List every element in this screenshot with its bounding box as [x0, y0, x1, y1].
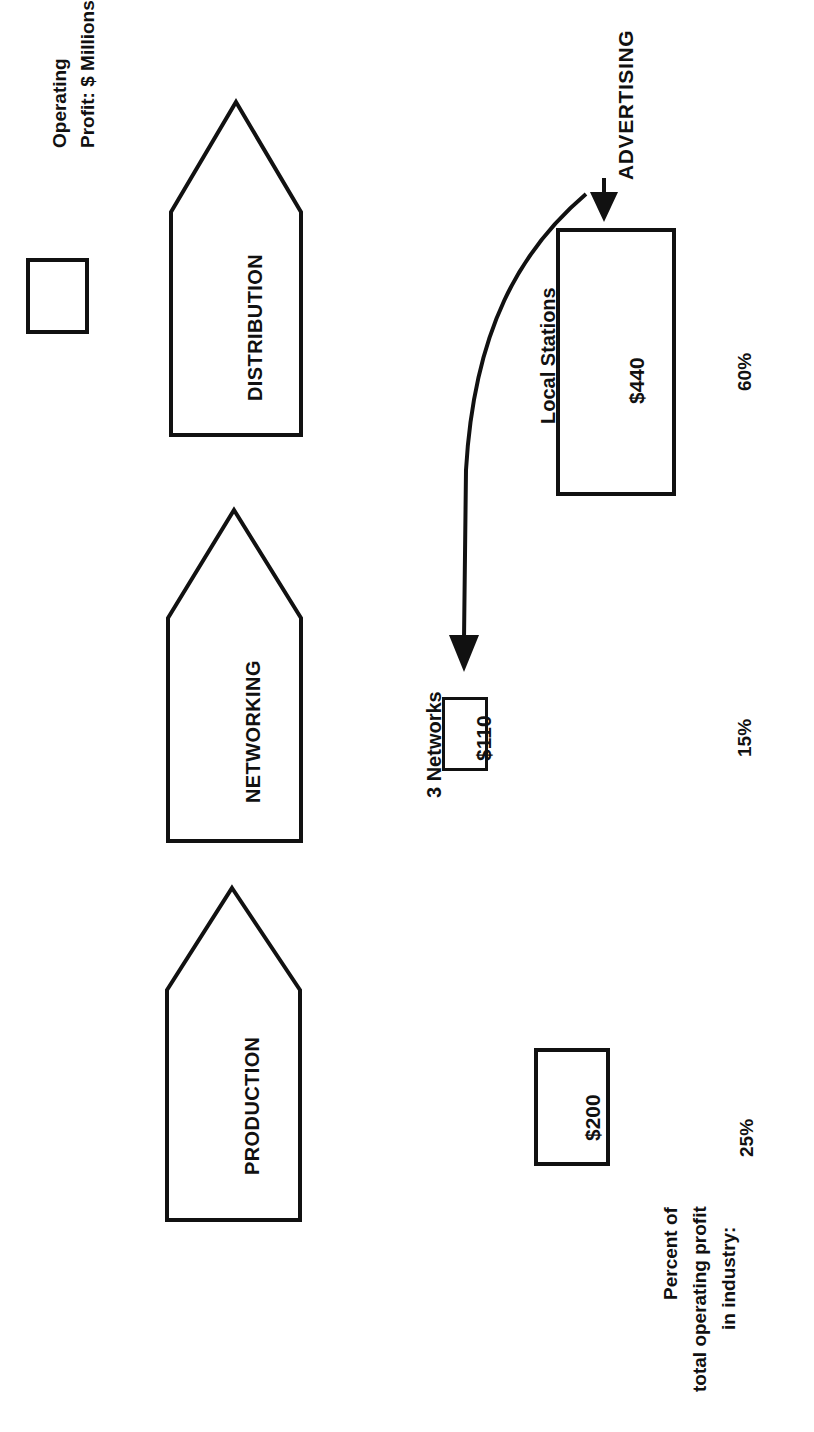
- percent-label-production: 25%: [737, 1119, 756, 1157]
- caption-line-2: total operating profit: [690, 1206, 709, 1392]
- profit-value-networks: $110: [473, 715, 494, 761]
- advertising-to-networks-arrowhead: [449, 635, 479, 672]
- percent-label-networks: 15%: [735, 719, 754, 757]
- group-label-networks: 3 Networks: [424, 691, 444, 798]
- stage-arrow-label-distribution: DISTRIBUTION: [245, 254, 265, 401]
- stage-arrow-label-production: PRODUCTION: [242, 1037, 262, 1175]
- legend-swatch: [26, 258, 89, 334]
- advertising-label: ADVERTISING: [615, 30, 636, 180]
- profit-box-localstations[interactable]: [556, 228, 676, 496]
- stage-arrow-distribution[interactable]: [171, 102, 301, 435]
- profit-value-production: $200: [582, 1094, 603, 1141]
- stage-arrow-label-networking: NETWORKING: [243, 660, 263, 803]
- legend-title-line-2: Profit: $ Millions: [78, 0, 97, 148]
- group-label-localstations: Local Stations: [538, 287, 558, 424]
- percent-label-localstations: 60%: [735, 353, 754, 391]
- advertising-to-localstations-arrowhead: [590, 192, 618, 222]
- legend-title-line-1: Operating: [50, 58, 69, 148]
- caption-line-3: in industry:: [719, 1227, 738, 1330]
- stage-arrow-production[interactable]: [167, 888, 300, 1220]
- profit-value-localstations: $440: [626, 357, 647, 404]
- stage-arrow-networking[interactable]: [168, 510, 301, 841]
- caption-line-1: Percent of: [661, 1207, 680, 1300]
- diagram-canvas: Operating Profit: $ Millions PRODUCTION …: [0, 0, 814, 1432]
